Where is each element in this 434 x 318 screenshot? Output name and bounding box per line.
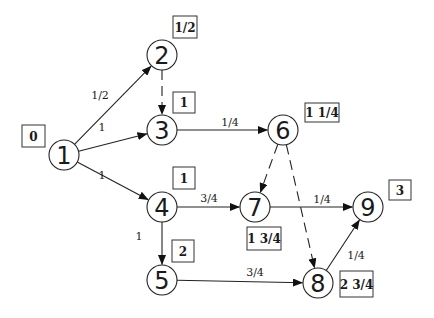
earliest-time-label: 1 1/4 (305, 106, 339, 120)
time-box-node-6: 1 1/4 (305, 103, 339, 122)
earliest-time-label: 1 3/4 (247, 232, 281, 246)
node-8: 8 (303, 268, 333, 298)
arrow-icon (326, 220, 359, 271)
edge-3-6: 1/4 (177, 116, 268, 131)
arrow-icon (74, 66, 151, 144)
edge-7-9: 1/4 (270, 193, 353, 208)
time-box-node-5: 2 (172, 240, 194, 262)
node-6: 6 (268, 115, 298, 145)
node-label: 7 (247, 194, 262, 222)
activity-network-diagram: 1/2111/43/411/43/41/4 123456789 01/21121… (0, 0, 434, 318)
edge-weight-label: 3/4 (246, 266, 264, 279)
node-label: 4 (154, 194, 169, 222)
node-1: 1 (49, 140, 79, 170)
time-box-node-9: 3 (389, 180, 411, 200)
arrow-icon (286, 145, 314, 268)
edge-weight-label: 1/4 (313, 193, 331, 206)
node-2: 2 (147, 40, 177, 70)
earliest-time-label: 1 (180, 96, 188, 110)
node-label: 3 (154, 117, 169, 145)
earliest-time-label: 1/2 (174, 21, 195, 35)
edge-weight-label: 1 (99, 121, 106, 134)
edge-weight-label: 1 (99, 169, 106, 182)
arrow-icon (177, 280, 303, 282)
node-label: 5 (154, 267, 169, 295)
node-label: 9 (360, 194, 375, 222)
time-box-node-8: 2 3/4 (340, 271, 374, 297)
edges-layer: 1/2111/43/411/43/41/4 (74, 66, 364, 283)
time-box-node-2: 1/2 (173, 16, 197, 38)
node-label: 2 (154, 42, 169, 70)
node-label: 8 (310, 270, 325, 298)
time-box-node-3: 1 (173, 92, 195, 113)
edge-6-8 (286, 145, 314, 268)
edge-6-7 (260, 144, 278, 192)
edge-weight-label: 1 (136, 230, 143, 243)
edge-4-7: 3/4 (177, 192, 240, 208)
edge-weight-label: 1/4 (221, 116, 239, 129)
node-5: 5 (147, 265, 177, 295)
edge-8-9: 1/4 (326, 220, 365, 271)
earliest-time-label: 2 (179, 245, 187, 259)
arrow-icon (79, 134, 147, 151)
edge-weight-label: 3/4 (200, 192, 218, 205)
node-label: 6 (275, 117, 290, 145)
time-box-node-4: 1 (173, 167, 195, 189)
earliest-time-label: 1 (180, 172, 188, 186)
earliest-time-label: 0 (29, 130, 37, 144)
node-label: 1 (56, 142, 71, 170)
edge-1-4: 1 (77, 162, 148, 200)
edge-5-8: 3/4 (177, 266, 303, 283)
node-7: 7 (240, 192, 270, 222)
earliest-time-label: 3 (396, 184, 404, 198)
edge-1-2: 1/2 (74, 66, 151, 144)
node-9: 9 (353, 192, 383, 222)
node-3: 3 (147, 115, 177, 145)
arrow-icon (260, 144, 278, 192)
time-box-node-1: 0 (22, 125, 45, 147)
edge-weight-label: 1/2 (91, 89, 109, 102)
arrow-icon (77, 162, 148, 200)
earliest-time-label: 2 3/4 (340, 278, 374, 292)
node-4: 4 (147, 192, 177, 222)
time-box-node-7: 1 3/4 (247, 227, 281, 250)
edge-4-5: 1 (136, 222, 163, 265)
edge-weight-label: 1/4 (347, 249, 365, 262)
edge-1-3: 1 (79, 121, 147, 152)
